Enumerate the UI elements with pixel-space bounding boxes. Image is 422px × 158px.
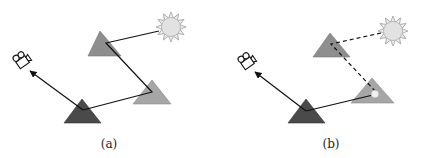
caption-b: (b) — [311, 137, 351, 151]
panel-b — [237, 16, 408, 123]
triangle-dark — [64, 99, 101, 123]
panel-a — [12, 12, 186, 123]
shading-point — [371, 90, 379, 98]
sun-icon — [378, 16, 408, 46]
camera-ray — [255, 72, 306, 111]
camera-icon — [12, 49, 32, 69]
sun-icon — [156, 12, 186, 42]
figure-canvas — [0, 0, 422, 158]
camera-icon — [237, 50, 257, 70]
caption-a: (a) — [89, 137, 129, 151]
triangle-upper — [88, 31, 121, 56]
camera-ray — [30, 71, 83, 110]
